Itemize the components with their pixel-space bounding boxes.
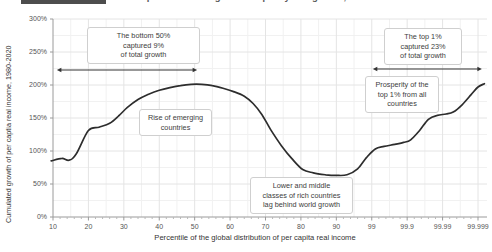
annotation-line: The top 1%	[389, 32, 457, 42]
annotation-line: classes of rich countries	[255, 191, 348, 201]
figure-badge: FIGURE 1	[21, 0, 106, 4]
annotation-line: Lower and middle	[255, 181, 348, 191]
svg-text:30: 30	[120, 223, 128, 230]
annotation-rich-countries-lag: Lower and middle classes of rich countri…	[250, 177, 353, 214]
elephant-curve-figure: FIGURE 1 The elephant curve of global in…	[0, 0, 492, 252]
annotation-line: Rise of emerging	[144, 113, 207, 123]
svg-text:99.99: 99.99	[434, 223, 452, 230]
x-axis-title: Percentile of the global distribution of…	[53, 233, 457, 242]
annotation-line: captured 23%	[389, 42, 457, 52]
annotation-line: top 1% from all	[370, 90, 434, 100]
svg-text:50%: 50%	[33, 180, 47, 187]
annotation-line: lag behind world growth	[255, 200, 348, 210]
svg-text:0%: 0%	[37, 213, 47, 220]
svg-text:99.999: 99.999	[467, 223, 489, 230]
annotation-top-1: The top 1% captured 23% of total growth	[384, 28, 462, 65]
svg-text:99.9: 99.9	[400, 223, 414, 230]
svg-text:300%: 300%	[29, 15, 47, 22]
annotation-line: The bottom 50%	[92, 31, 195, 41]
annotation-line: countries	[144, 123, 207, 133]
svg-text:10: 10	[49, 223, 57, 230]
annotation-line: captured 9%	[92, 41, 195, 51]
svg-text:99: 99	[368, 223, 376, 230]
annotation-line: of total growth	[389, 51, 457, 61]
svg-text:70: 70	[262, 223, 270, 230]
svg-text:200%: 200%	[29, 81, 47, 88]
figure-header: FIGURE 1 The elephant curve of global in…	[0, 0, 492, 6]
annotation-rise-emerging: Rise of emerging countries	[139, 109, 212, 136]
svg-text:100%: 100%	[29, 147, 47, 154]
svg-text:80: 80	[297, 223, 305, 230]
svg-text:20: 20	[85, 223, 93, 230]
svg-text:50: 50	[191, 223, 199, 230]
svg-text:150%: 150%	[29, 114, 47, 121]
annotation-bottom-50: The bottom 50% captured 9% of total grow…	[87, 27, 200, 64]
annotation-line: Prosperity of the	[370, 80, 434, 90]
y-axis-title-text: Cumulated growth of per captia real inco…	[4, 46, 13, 223]
svg-text:90: 90	[332, 223, 340, 230]
annotation-line: of total growth	[92, 50, 195, 60]
svg-text:60: 60	[226, 223, 234, 230]
figure-title: The elephant curve of global inequality …	[114, 0, 394, 2]
svg-text:250%: 250%	[29, 48, 47, 55]
annotation-prosperity-top-1: Prosperity of the top 1% from all countr…	[365, 76, 439, 113]
annotation-line: countries	[370, 99, 434, 109]
svg-text:40: 40	[155, 223, 163, 230]
